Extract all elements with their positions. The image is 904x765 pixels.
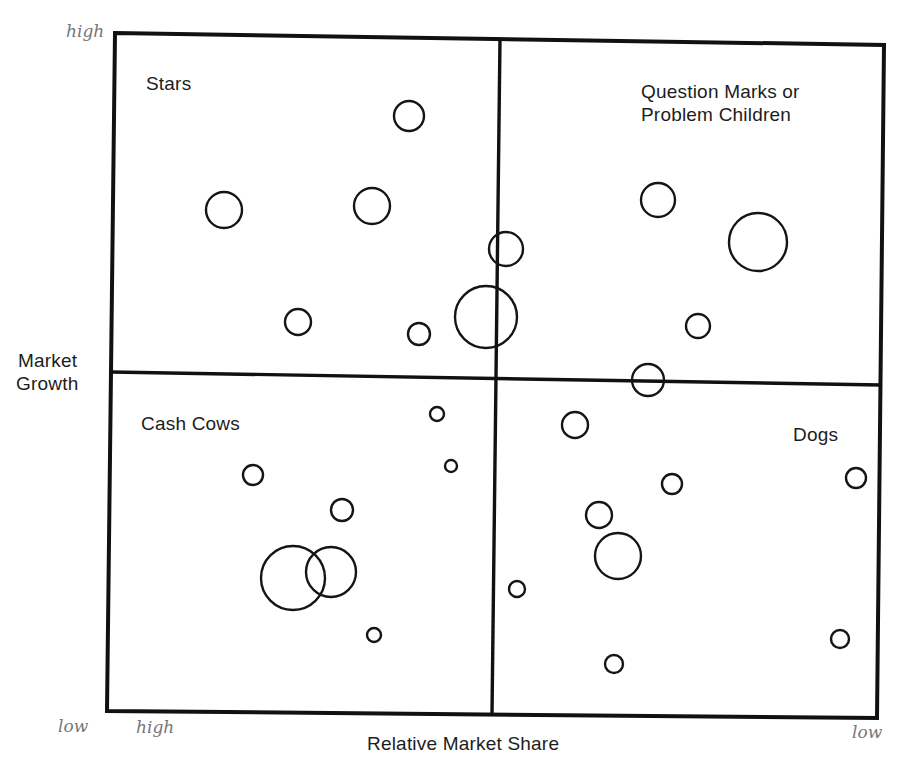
bubble-stars-3 [354,188,390,224]
bubble-stars-1 [394,101,424,131]
bubble-dogs-1 [562,412,588,438]
handwritten-y-low: low [58,716,88,736]
bubble-dogs-3 [846,468,866,488]
bubble-layer [206,101,866,673]
bubble-dogs-8 [605,655,623,673]
bubble-stars-2 [206,192,242,228]
bubble-cash-cows-4 [331,499,353,521]
quadrant-label-dogs: Dogs [793,423,838,446]
y-axis-label: Market Growth [16,349,78,395]
bubble-cash-cows-1 [430,407,444,421]
y-axis-label-line2: Growth [16,372,78,395]
bubble-cash-cows-6 [306,547,356,597]
bubble-dogs-2 [662,474,682,494]
bubble-dogs-7 [831,630,849,648]
bubble-stars-4 [285,309,311,335]
bubble-dogs-5 [595,533,641,579]
quadrant-label-question-marks: Question Marks or Problem Children [641,80,800,126]
bubble-stars-6 [455,286,517,348]
bubble-cash-cows-2 [445,460,457,472]
bubble-dogs-6 [509,581,525,597]
y-axis-label-line1: Market [16,349,78,372]
bubble-question-marks-3 [686,314,710,338]
bubble-cash-cows-7 [367,628,381,642]
quadrant-label-cash-cows: Cash Cows [141,412,240,435]
bubble-stars-7 [489,232,523,266]
quadrant-label-question-marks-line1: Question Marks or [641,80,800,103]
vertical-divider [492,38,500,714]
bubble-cash-cows-5 [261,546,325,610]
handwritten-x-high: high [136,717,174,737]
handwritten-x-low: low [852,722,882,742]
bubble-question-marks-1 [641,183,675,217]
growth-share-matrix: Stars Question Marks or Problem Children… [0,0,904,765]
bubble-dogs-4 [586,502,612,528]
handwritten-y-high: high [66,21,104,41]
quadrant-label-question-marks-line2: Problem Children [641,103,800,126]
x-axis-label: Relative Market Share [367,732,559,755]
bubble-stars-5 [408,323,430,345]
bubble-cash-cows-3 [243,465,263,485]
bubble-question-marks-2 [729,213,787,271]
quadrant-label-stars: Stars [146,72,191,95]
